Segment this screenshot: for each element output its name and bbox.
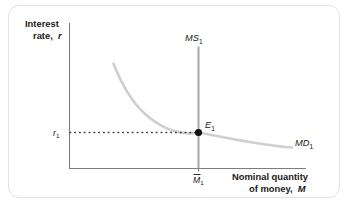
r-label-sub: 1 <box>56 132 60 139</box>
x-tick-label-mbar1: M1 <box>193 175 204 187</box>
m-label-sub: 1 <box>200 179 204 186</box>
y-tick-label-r1: r1 <box>53 128 60 139</box>
y-axis-title-text: rate, <box>33 30 53 41</box>
money-market-chart: Interest rate, r Nominal quantity of mon… <box>9 6 341 199</box>
money-supply-curve-label: MS1 <box>185 33 203 45</box>
equilibrium-point <box>195 129 202 136</box>
x-axis-title-line2: of money, M <box>249 183 306 194</box>
md-label-base: MD <box>295 138 310 148</box>
ms-label-sub: 1 <box>199 38 203 45</box>
y-axis-title-line2: rate, r <box>33 30 63 41</box>
md-label-sub: 1 <box>309 143 313 150</box>
equilibrium-label: E1 <box>205 120 215 132</box>
x-axis-title-line1: Nominal quantity <box>232 171 309 182</box>
x-axis-title-symbol: M <box>298 183 306 194</box>
svg-text:M1: M1 <box>193 175 204 186</box>
e-label-sub: 1 <box>211 125 215 132</box>
y-axis-title-symbol: r <box>58 30 63 41</box>
x-axis-title-text: of money, <box>249 183 293 194</box>
money-demand-curve <box>114 64 293 148</box>
money-demand-curve-label: MD1 <box>295 138 313 150</box>
y-axis-title-line1: Interest <box>25 18 59 29</box>
ms-label-base: MS <box>185 33 200 43</box>
figure-card: Interest rate, r Nominal quantity of mon… <box>8 5 340 198</box>
